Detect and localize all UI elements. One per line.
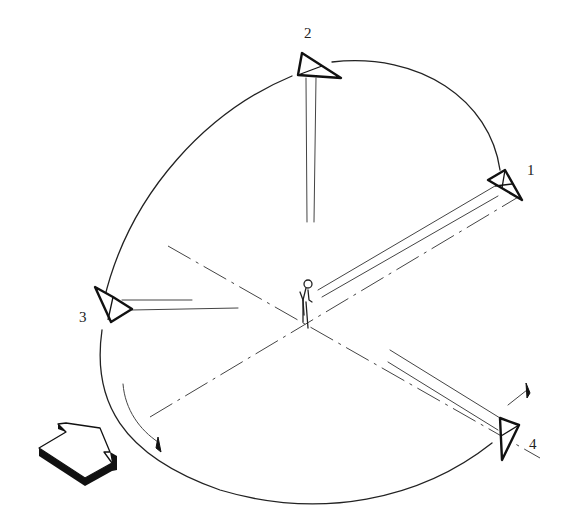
axis-diagonal-down bbox=[168, 246, 540, 458]
camera-label-3: 3 bbox=[79, 310, 87, 325]
camera-label-2: 2 bbox=[304, 26, 312, 41]
axes bbox=[150, 196, 540, 458]
diagram-svg bbox=[0, 0, 566, 532]
camera-2-icon bbox=[298, 53, 341, 78]
small-arrow-icon bbox=[508, 383, 530, 405]
curved-arrow-icon bbox=[123, 384, 161, 452]
diagram-canvas: 1 2 3 4 bbox=[0, 0, 566, 532]
axis-diagonal-up bbox=[150, 196, 520, 417]
camera-1-icon bbox=[488, 170, 522, 200]
path-2-to-3 bbox=[104, 76, 292, 300]
camera-label-4: 4 bbox=[529, 437, 537, 452]
path-2-to-1 bbox=[332, 61, 500, 170]
camera-3-icon bbox=[95, 287, 132, 322]
direction-arrow-icon bbox=[39, 423, 117, 486]
path-3-to-4 bbox=[100, 330, 492, 504]
camera-4-icon bbox=[500, 418, 519, 460]
camera-path bbox=[100, 61, 500, 504]
sight-lines bbox=[122, 78, 500, 430]
camera-label-1: 1 bbox=[527, 163, 535, 178]
